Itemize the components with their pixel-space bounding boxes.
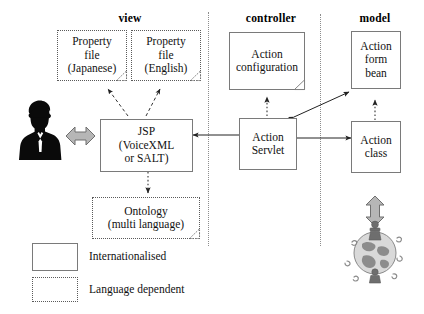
connector-jsp-to-property-file-english	[146, 89, 160, 116]
diagram-canvas: view controller model	[0, 0, 424, 314]
legend-swatch-internationalised	[32, 243, 78, 271]
node-label-line: class	[365, 147, 387, 159]
node-label-line: Servlet	[252, 144, 285, 156]
legend-label-internationalised: Internationalised	[89, 250, 166, 262]
legend-swatch-language-dependent	[32, 277, 78, 302]
connector-jsp-to-property-file-japanese	[108, 89, 128, 116]
node-label-line: (Japanese)	[68, 62, 117, 74]
node-label-line: (English)	[145, 62, 188, 74]
node-label-line: bean	[365, 67, 387, 79]
legend-label-language-dependent: Language dependent	[89, 283, 184, 295]
column-heading-model: model	[340, 12, 410, 24]
node-label-line: file	[84, 49, 99, 61]
node-action-servlet: Action Servlet	[239, 118, 297, 170]
folded-corner-icon	[294, 79, 305, 90]
node-label-line: Action	[360, 134, 391, 146]
node-action-configuration: Action configuration	[229, 32, 305, 90]
folded-corner-icon	[189, 228, 200, 239]
node-property-file-japanese: Property file (Japanese)	[57, 30, 127, 81]
node-action-class: Action class	[351, 121, 401, 173]
folded-corner-icon	[116, 70, 127, 81]
node-label-line: (multi language)	[108, 218, 184, 230]
node-label-line: (VoiceXML	[119, 139, 174, 151]
node-property-file-english: Property file (English)	[131, 30, 201, 81]
column-heading-controller: controller	[228, 12, 314, 24]
node-label-line: Action	[251, 48, 282, 60]
node-label-line: configuration	[236, 61, 298, 73]
divider-view-controller	[208, 12, 209, 246]
connector-action-servlet-to-action-form-bean	[294, 92, 349, 117]
node-label-line: or SALT)	[125, 152, 169, 164]
node-label-line: Action	[252, 131, 283, 143]
node-label-line: Property	[72, 35, 112, 47]
node-ontology: Ontology (multi language)	[92, 197, 200, 239]
node-action-form-bean: Action form bean	[351, 31, 401, 89]
user-to-jsp-block-arrow	[66, 127, 95, 145]
node-jsp: JSP (VoiceXML or SALT)	[100, 119, 193, 172]
node-label-line: file	[158, 49, 173, 61]
folded-corner-icon	[190, 70, 201, 81]
node-label-line: JSP	[138, 125, 155, 137]
action-class-to-globe-block-arrow	[366, 196, 384, 226]
node-label-line: Property	[146, 35, 186, 47]
user-silhouette-icon	[19, 101, 61, 160]
globe-with-people-icon	[345, 221, 402, 283]
column-heading-view: view	[88, 12, 172, 24]
node-label-line: Ontology	[124, 205, 167, 217]
divider-controller-model	[320, 14, 321, 246]
node-label-line: form	[365, 53, 387, 65]
node-label-line: Action	[360, 40, 391, 52]
